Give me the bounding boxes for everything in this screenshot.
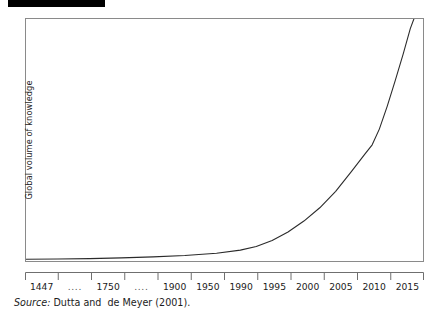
x-tick-label: 1447 [25, 280, 58, 293]
x-axis-ticks [25, 272, 424, 280]
source-label: Source: [14, 297, 50, 308]
x-tick-label: 2000 [291, 280, 324, 293]
x-tick-label: 2015 [391, 280, 424, 293]
x-tick-label: 2010 [358, 280, 391, 293]
x-tick-label: 1990 [225, 280, 258, 293]
series-line-global-volume-of-knowledge [26, 19, 414, 259]
y-axis-title: Global volume of knowledge [22, 18, 36, 262]
x-tick-label: 1995 [258, 280, 291, 293]
x-tick-label: .... [58, 280, 91, 293]
source-caption: Source: Dutta and de Meyer (2001). [14, 296, 190, 309]
x-axis-rail [25, 272, 424, 280]
x-tick-label-row: 1447....1750....190019501990199520002005… [25, 280, 424, 294]
x-tick-label: 1950 [191, 280, 224, 293]
plot-area [25, 18, 424, 262]
figure-container: Global volume of knowledge 1447....1750.… [0, 0, 440, 319]
x-tick-label: 1900 [158, 280, 191, 293]
x-tick-label: 1750 [92, 280, 125, 293]
x-tick-label: .... [125, 280, 158, 293]
source-citation: Dutta and de Meyer (2001). [50, 297, 190, 308]
x-tick-label: 2005 [324, 280, 357, 293]
knowledge-growth-curve [26, 19, 423, 261]
x-tick-marks [26, 273, 424, 281]
